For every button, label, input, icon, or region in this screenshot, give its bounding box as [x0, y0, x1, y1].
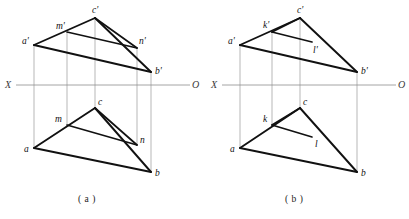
axis-label-x-b: X [210, 79, 218, 90]
segment-k-l [272, 125, 312, 137]
axis-label-o-a: O [192, 79, 199, 90]
panel-a-horizontal-triangle [34, 108, 151, 172]
label-c-prime: c' [297, 5, 304, 15]
label-b: b [361, 168, 366, 178]
axis-label-o-b: O [398, 79, 405, 90]
label-m-prime: m' [56, 21, 66, 31]
label-b: b [155, 168, 160, 178]
edge-b-prime-a-prime [240, 45, 357, 72]
panel-a: X O a' c' b' m' n' [4, 5, 199, 178]
panel-a-projection-lines [34, 18, 151, 172]
label-c-prime: c' [92, 5, 99, 15]
label-a: a [230, 144, 235, 154]
label-b-prime: b' [361, 66, 369, 76]
label-m: m [55, 114, 62, 124]
edge-b-prime-a-prime [34, 45, 151, 72]
label-l: l [315, 139, 318, 149]
label-k: k [263, 114, 268, 124]
label-b-prime: b' [155, 66, 163, 76]
edge-c-prime-b-prime [300, 18, 357, 72]
caption-panel-b: ( b ) [285, 194, 303, 204]
axis-label-x-a: X [4, 79, 12, 90]
edge-a-c [34, 108, 95, 148]
segment-k-prime-l-prime [272, 32, 312, 42]
segment-k-c [272, 108, 300, 125]
label-c: c [303, 97, 308, 107]
panel-b-projection-lines [240, 18, 357, 172]
panel-a-frontal-triangle [34, 18, 151, 72]
panel-b: X O a' c' b' k' l' [210, 5, 405, 178]
segment-k-prime-c-prime [272, 18, 300, 32]
label-n-prime: n' [139, 36, 147, 46]
label-a-prime: a' [228, 36, 236, 46]
panel-b-frontal-triangle [240, 18, 357, 72]
label-n: n [140, 135, 145, 145]
label-a: a [24, 144, 29, 154]
figure-canvas: X O a' c' b' m' n' [0, 0, 409, 219]
projection-diagram: X O a' c' b' m' n' [0, 0, 409, 219]
label-l-prime: l' [313, 45, 319, 55]
label-k-prime: k' [263, 20, 270, 30]
caption-panel-a: ( a ) [78, 194, 96, 204]
label-c: c [98, 97, 103, 107]
label-a-prime: a' [22, 36, 30, 46]
panel-b-horizontal-triangle [240, 108, 357, 172]
